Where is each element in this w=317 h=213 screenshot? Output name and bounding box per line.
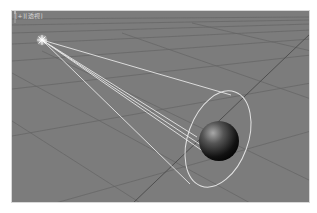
sphere-object	[199, 121, 239, 161]
viewport-label[interactable]: [+][透视]	[15, 12, 43, 20]
spotlight-beams	[42, 40, 231, 184]
axis-gizmo-icon	[12, 11, 18, 23]
scene-canvas[interactable]	[12, 11, 310, 203]
spotlight-icon	[36, 34, 48, 46]
ground-grid	[12, 17, 310, 203]
3d-viewport[interactable]: [+][透视]	[11, 10, 310, 203]
